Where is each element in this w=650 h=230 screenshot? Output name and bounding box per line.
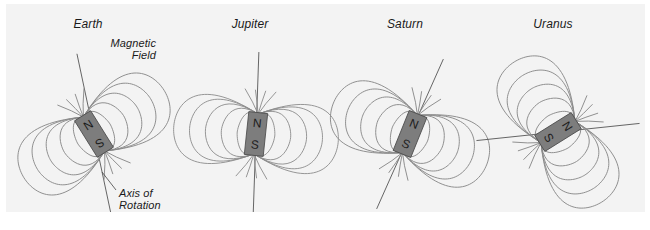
- axis-of-rotation-label-line2: Rotation: [119, 199, 209, 212]
- planet-group-uranus: NS: [476, 39, 639, 212]
- magnetic-field-line: [252, 100, 341, 177]
- magnetic-field-line: [521, 143, 544, 160]
- magnetic-field-line: [572, 104, 595, 121]
- magnetic-field-line: [105, 148, 122, 171]
- bar-magnet: NS: [535, 113, 582, 152]
- magnetic-field-line: [258, 90, 266, 114]
- planet-magnetospheres-svg: SNNSNSNS: [6, 4, 645, 212]
- magnet-pole-label-bottom: S: [250, 137, 259, 152]
- bar-magnet: NS: [244, 112, 267, 157]
- magnetic-field-line: [66, 97, 83, 120]
- magnetic-field-line: [246, 153, 254, 177]
- planet-title-uranus: Uranus: [493, 18, 613, 31]
- planet-title-jupiter: Jupiter: [190, 18, 310, 31]
- bar-magnet-body: [535, 113, 582, 152]
- magnetic-field-line: [170, 91, 259, 168]
- bar-magnet: SN: [75, 111, 114, 158]
- planet-title-earth: Earth: [28, 18, 148, 31]
- magnetic-field-label-line2: Field: [64, 49, 156, 62]
- figure-page: SNNSNSNS Earth Jupiter Saturn Uranus Mag…: [0, 0, 650, 230]
- magnetic-field-diagram-panel: SNNSNSNS Earth Jupiter Saturn Uranus Mag…: [6, 4, 645, 212]
- planet-group-saturn: NS: [317, 59, 503, 209]
- magnet-pole-label-top: N: [252, 116, 262, 131]
- planet-title-saturn: Saturn: [345, 18, 465, 31]
- bar-magnet-body: [75, 111, 114, 158]
